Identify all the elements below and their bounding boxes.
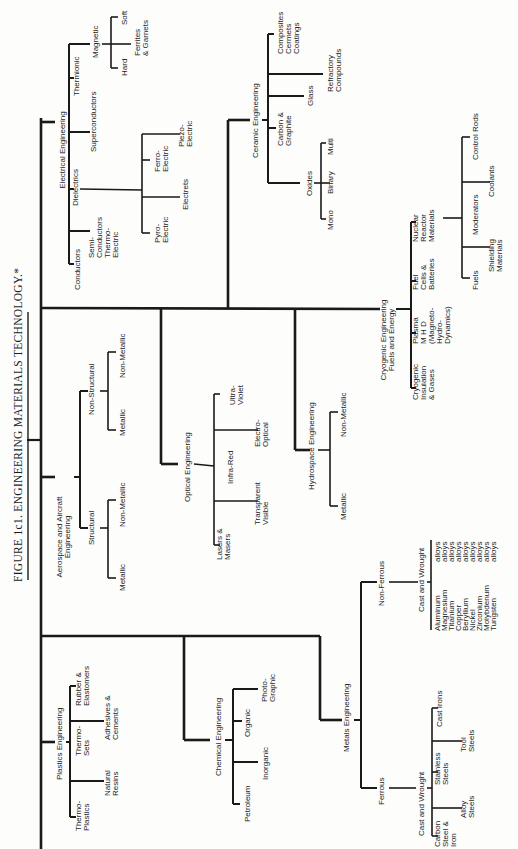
cryogenic-label-2: Fuels and Energy [387,309,396,372]
hydrospace-engineering-label: Hydrospace Engineering [307,402,316,490]
aerospace-nonstructural-nonmetallic-label: Non-Metallic [118,334,127,378]
thermoplastics-label-2: Plastics [82,803,91,831]
fuels-label: Fuels [471,270,480,290]
inorganic-label: Inorganic [261,747,270,780]
hydrospace-metallic-label: Metallic [339,493,348,520]
plastics-engineering-label: Plastics Engineering [55,708,64,780]
oxides-label: Oxides [305,171,314,196]
cryogenic-insulation-label-3: & Gases [427,369,436,400]
conductors-label: Conductors [73,249,82,290]
metals-engineering-branch: Metals Engineering Ferrous Cast and Wrou… [342,540,498,847]
magnetic-label: Magnetic [91,26,100,58]
piezoelectric-label-2: Electric [185,121,194,147]
coolants-label: Coolants [487,165,496,197]
hydrospace-engineering-branch: Hydrospace Engineering Non-Metallic Meta… [307,393,348,520]
ceramic-engineering-branch: Ceramic Engineering Oxides Mono Binary M… [251,12,343,230]
carbon-graphite-label-2: Graphite [284,115,293,146]
ferrous-label: Ferrous [377,777,386,805]
plasma-label-5: Dynamics) [443,306,452,344]
control-rods-label: Control Rods [471,113,480,160]
aerospace-nonstructural-metallic-label: Metallic [118,409,127,436]
refractory-label-2: Compounds [334,49,343,92]
lasers-label-2: Masers [223,534,232,560]
cryogenic-fuels-energy-branch: Cryogenic Engineering Fuels and Energy C… [379,113,504,400]
non-structural-label: Non-Structural [87,363,96,415]
photographic-label-2: Graphic [268,674,277,702]
non-ferrous-metals-list: Aluminum Magnesium Titanium Copper Beryl… [433,585,498,631]
plastics-engineering-branch: Plastics Engineering Thermo- Plastics Na… [55,666,120,831]
superconductors-label: Superconductors [89,92,98,152]
aerospace-structural-metallic-label: Metallic [118,564,127,591]
metals-engineering-label: Metals Engineering [342,684,351,752]
pyroelectric-label-2: Electric [161,217,170,243]
electrical-engineering-branch: Electrical Engineering Conductors Semi- … [58,10,194,290]
electrets-label: Electrets [181,179,190,210]
natural-resins-label-2: Resins [111,772,120,796]
ceramic-engineering-label: Ceramic Engineering [251,83,260,158]
rubber-label-2: Elastomers [82,666,91,706]
cast-irons-label: Cast Irons [435,691,444,727]
tool-steels-label-2: Steels [467,730,476,752]
aerospace-label-2: Engineering [63,516,72,559]
ferrites-label-2: & Garnets [141,20,150,56]
shielding-label-2: Materials [495,240,504,272]
visible-label: Visible [261,501,270,525]
thermosets-label-2: Sets [82,740,91,756]
non-ferrous-label: Non-Ferrous [377,561,386,606]
moderators-label: Moderators [471,195,480,235]
non-ferrous-cast-wrought-label: Cast and Wrought [417,547,426,612]
glass-label: Glass [306,86,315,106]
ferrous-cast-wrought-label: Cast and Wrought [417,771,426,836]
stainless-steels-label-2: Steels [441,763,450,785]
tree-diagram: FIGURE 1c1. ENGINEERING MATERIALS TECHNO… [0,0,518,849]
thermionic-label: Thermionic [72,56,81,96]
electro-optical-label-2: Optical [261,422,270,447]
aerospace-structural-nonmetallic-label: Non-Metallic [118,483,127,527]
diagram-page: FIGURE 1c1. ENGINEERING MATERIALS TECHNO… [0,0,518,849]
carbon-steel-label-3: Iron [449,833,458,847]
fuel-cells-label-3: Batteries [427,258,436,290]
hydrospace-nonmetallic-label: Non-Metallic [339,393,348,437]
electrical-engineering-label: Electrical Engineering [58,111,67,188]
alloys-label: alloys [489,542,498,562]
organic-label: Organic [243,709,252,737]
figure-title: FIGURE 1c1. ENGINEERING MATERIALS TECHNO… [12,268,24,582]
ferroelectric-label-2: Electric [161,146,170,172]
optical-engineering-branch: Optical Engineering Infra-Red Lasers & M… [183,384,270,560]
petroleum-label: Petroleum [243,785,252,822]
alloys-column: alloys alloys alloys alloys alloys alloy… [433,542,498,562]
thermoelectric-label-2: Electric [111,232,120,258]
hard-label: Hard [120,59,129,76]
multi-label: Multi [326,138,335,155]
ultraviolet-label-2: Violet [236,384,245,405]
optical-engineering-label: Optical Engineering [183,432,192,502]
alloy-steels-label-2: Steels [467,796,476,818]
adhesives-label-2: Cements [111,708,120,740]
chemical-engineering-branch: Chemical Engineering Petroleum Inorganic… [214,674,277,822]
structural-label: Structural [87,511,96,545]
soft-label: Soft [120,10,129,25]
dielectrics-label: Dielectrics [71,169,80,206]
aerospace-engineering-branch: Aerospace and Aircraft Engineering Non-S… [55,334,127,591]
infra-red-label: Infra-Red [226,451,235,484]
binary-label: Binary [326,171,335,194]
coatings-label: Coatings [292,22,301,54]
tungsten-label: Tungsten [489,598,498,631]
mono-label: Mono [326,209,335,230]
chemical-engineering-label: Chemical Engineering [214,698,223,776]
nuclear-label-3: Materials [427,210,436,242]
